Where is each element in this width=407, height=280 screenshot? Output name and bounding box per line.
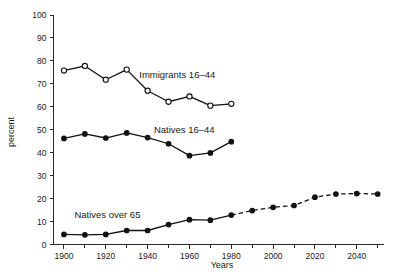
data-point-marker <box>292 203 297 208</box>
data-point-marker <box>124 228 129 233</box>
line-chart: 0102030405060708090100 19001920194019601… <box>0 0 407 280</box>
data-point-marker <box>124 67 129 72</box>
series-annotation-label: Immigrants 16–44 <box>139 69 215 80</box>
data-point-marker <box>103 232 108 237</box>
data-point-marker <box>229 101 234 106</box>
x-tick-label: 1980 <box>222 251 241 261</box>
data-point-marker <box>83 233 88 238</box>
data-point-marker <box>187 94 192 99</box>
data-point-marker <box>103 77 108 82</box>
data-point-marker <box>82 63 87 68</box>
data-point-marker <box>62 136 67 141</box>
data-point-marker <box>187 217 192 222</box>
x-tick-label: 1960 <box>180 251 199 261</box>
y-axis-title: percent <box>6 116 16 147</box>
data-point-marker <box>166 141 171 146</box>
y-tick-label: 60 <box>37 102 47 112</box>
data-point-marker <box>208 103 213 108</box>
y-tick-label: 0 <box>42 240 47 250</box>
data-point-marker <box>145 228 150 233</box>
x-tick-label: 1920 <box>96 251 115 261</box>
data-point-marker <box>124 131 129 136</box>
data-point-marker <box>103 136 108 141</box>
y-tick-label: 50 <box>37 125 47 135</box>
data-point-marker <box>375 192 380 197</box>
x-axis-title: Years <box>211 260 234 270</box>
y-tick-label: 70 <box>37 79 47 89</box>
y-tick-label: 80 <box>37 56 47 66</box>
x-tick-label: 2040 <box>347 251 366 261</box>
x-tick-label: 1940 <box>138 251 157 261</box>
series-annotation-label: Natives 16–44 <box>154 124 215 135</box>
data-point-marker <box>166 99 171 104</box>
data-point-marker <box>250 208 255 213</box>
data-point-marker <box>271 205 276 210</box>
data-point-marker <box>166 222 171 227</box>
series-annotation-label: Natives over 65 <box>74 209 140 220</box>
data-point-marker <box>334 192 339 197</box>
x-tick-label: 1900 <box>54 251 73 261</box>
chart-container: 0102030405060708090100 19001920194019601… <box>0 0 407 280</box>
y-tick-label: 40 <box>37 148 47 158</box>
x-tick-label: 2000 <box>264 251 283 261</box>
data-point-marker <box>62 232 67 237</box>
data-point-marker <box>145 135 150 140</box>
data-point-marker <box>83 132 88 137</box>
data-point-marker <box>187 153 192 158</box>
y-tick-label: 10 <box>37 217 47 227</box>
data-point-marker <box>208 151 213 156</box>
data-point-marker <box>208 218 213 223</box>
data-point-marker <box>313 195 318 200</box>
y-axis-ticks: 0102030405060708090100 <box>32 10 53 250</box>
y-tick-label: 30 <box>37 171 47 181</box>
data-point-marker <box>145 88 150 93</box>
x-tick-label: 2020 <box>306 251 325 261</box>
data-point-marker <box>61 68 66 73</box>
x-axis-ticks: 19001920194019601980200020202040 <box>54 245 377 261</box>
data-point-marker <box>229 213 234 218</box>
y-tick-label: 90 <box>37 33 47 43</box>
y-tick-label: 20 <box>37 194 47 204</box>
data-point-marker <box>355 191 360 196</box>
y-tick-label: 100 <box>32 10 46 20</box>
data-point-marker <box>229 139 234 144</box>
